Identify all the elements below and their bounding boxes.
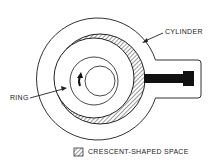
cylinder-label: CYLINDER xyxy=(165,28,203,35)
legend-swatch xyxy=(74,148,83,156)
ring-label: RING xyxy=(10,94,29,101)
compressor-diagram xyxy=(0,0,210,162)
cylinder-leader-line xyxy=(142,33,163,43)
legend-label: CRESCENT-SHAPED SPACE xyxy=(88,148,189,155)
eccentric-shaft xyxy=(85,66,115,96)
